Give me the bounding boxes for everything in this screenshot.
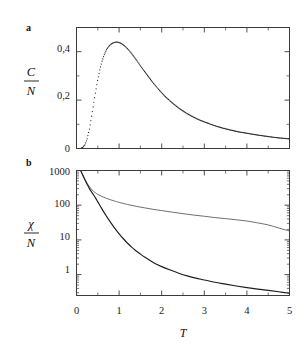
panel-a-data-point	[103, 56, 104, 57]
panel-a-data-point	[90, 120, 91, 121]
panel-b-xtick-labels: 012345	[74, 305, 292, 316]
panel-b-curve-lower	[81, 171, 290, 293]
panel-a-ylabel-numerator: C	[27, 65, 36, 79]
panel-b-xtick-label: 5	[287, 305, 292, 316]
panel-a-data-point	[104, 52, 105, 53]
panel-a-data-point	[144, 71, 145, 72]
panel-b-plot-frame	[77, 171, 290, 296]
panel-a-data-point	[139, 64, 140, 65]
panel-a-data-point	[99, 69, 100, 70]
panel-a-data-point	[106, 49, 107, 50]
panel-b-ylabel-numerator: χ	[27, 217, 34, 231]
panel-a-data-point	[91, 116, 92, 117]
panel-a-tickmarks	[77, 28, 290, 149]
panel-b-ytick-label-1: 1	[65, 264, 70, 275]
panel-a-data-point	[86, 140, 87, 141]
panel-a-label: a	[26, 22, 31, 33]
panel-a-data-point	[107, 47, 108, 48]
panel-a-data-point	[104, 54, 105, 55]
panel-a-data-point	[131, 53, 132, 54]
panel-a-ylabel: C N	[24, 65, 39, 98]
panel-a-data-point	[84, 144, 85, 145]
panel-a-data-point	[132, 54, 133, 55]
panel-a-ylabel-denominator: N	[26, 84, 36, 98]
panel-a-data-point	[143, 70, 144, 71]
panel-a-data-point	[92, 106, 93, 107]
panel-a-data-point	[142, 68, 143, 69]
panel-a-ytick-label-0: 0,4	[57, 43, 71, 54]
panel-a-data-point	[94, 97, 95, 98]
panel-a-data-point	[134, 57, 135, 58]
panel-a-data-point	[93, 102, 94, 103]
panel-a-data-point	[136, 59, 137, 60]
panel-a-data-point	[289, 138, 290, 139]
panel-b-xaxis-title: T	[180, 326, 188, 340]
panel-b-ylabel: χ N	[24, 217, 39, 250]
panel-b-label: b	[26, 157, 32, 168]
panel-b-ytick-label-100: 100	[54, 198, 70, 209]
panel-a-data-point	[135, 58, 136, 59]
panel-a-data-point	[95, 88, 96, 89]
panel-b-xtick-label: 3	[202, 305, 207, 316]
panel-a-data-point	[134, 56, 135, 57]
panel-a-data-point	[136, 60, 137, 61]
panel-a-data-point	[148, 77, 149, 78]
panel-a-data-point	[88, 132, 89, 133]
panel-a-data-point	[89, 128, 90, 129]
panel-a: a C N 0,4 0,2 0	[24, 22, 290, 154]
panel-a-data-point	[95, 92, 96, 93]
panel-a-data-point	[87, 138, 88, 139]
figure-container: a C N 0,4 0,2 0 b χ N	[0, 0, 306, 348]
panel-a-data-point	[107, 48, 108, 49]
panel-b-curves	[81, 171, 290, 293]
panel-a-data-point	[141, 67, 142, 68]
panel-a-data-point	[92, 111, 93, 112]
panel-a-data-points	[81, 41, 290, 148]
panel-a-data-point	[96, 84, 97, 85]
panel-b-xtick-label: 4	[244, 305, 250, 316]
two-panel-figure: a C N 0,4 0,2 0 b χ N	[0, 0, 306, 348]
panel-a-data-point	[145, 72, 146, 73]
panel-b-curve-upper	[81, 171, 290, 231]
panel-a-data-point	[151, 80, 152, 81]
panel-b-xtick-label: 1	[116, 305, 121, 316]
panel-b: b χ N 1000 100 10 1 012345 T	[24, 157, 292, 340]
panel-a-data-point	[98, 73, 99, 74]
panel-a-ytick-label-2: 0	[65, 143, 70, 154]
panel-a-data-point	[140, 66, 141, 67]
panel-a-data-point	[101, 63, 102, 64]
panel-a-plot-frame	[77, 28, 290, 149]
panel-b-xtick-label: 0	[74, 305, 79, 316]
panel-a-data-point	[138, 62, 139, 63]
panel-a-data-point	[97, 80, 98, 81]
panel-a-data-point	[137, 61, 138, 62]
panel-a-data-point	[139, 65, 140, 66]
panel-a-data-point	[101, 61, 102, 62]
panel-a-data-point	[146, 74, 147, 75]
panel-a-data-point	[100, 66, 101, 67]
panel-a-data-point	[149, 78, 150, 79]
panel-b-ytick-label-1000: 1000	[49, 166, 70, 177]
panel-a-data-point	[147, 75, 148, 76]
panel-a-data-point	[85, 142, 86, 143]
panel-a-data-point	[148, 76, 149, 77]
panel-b-tickmarks	[77, 171, 290, 296]
panel-b-ytick-label-10: 10	[60, 231, 71, 242]
panel-a-data-point	[87, 135, 88, 136]
panel-b-ylabel-denominator: N	[26, 236, 36, 250]
panel-a-data-point	[98, 76, 99, 77]
panel-a-data-point	[105, 51, 106, 52]
panel-a-data-point	[90, 124, 91, 125]
panel-b-xtick-label: 2	[159, 305, 164, 316]
panel-a-data-point	[142, 69, 143, 70]
panel-a-ytick-label-1: 0,2	[57, 90, 70, 101]
panel-a-data-point	[145, 73, 146, 74]
panel-a-data-point	[133, 55, 134, 56]
panel-a-data-point	[102, 58, 103, 59]
